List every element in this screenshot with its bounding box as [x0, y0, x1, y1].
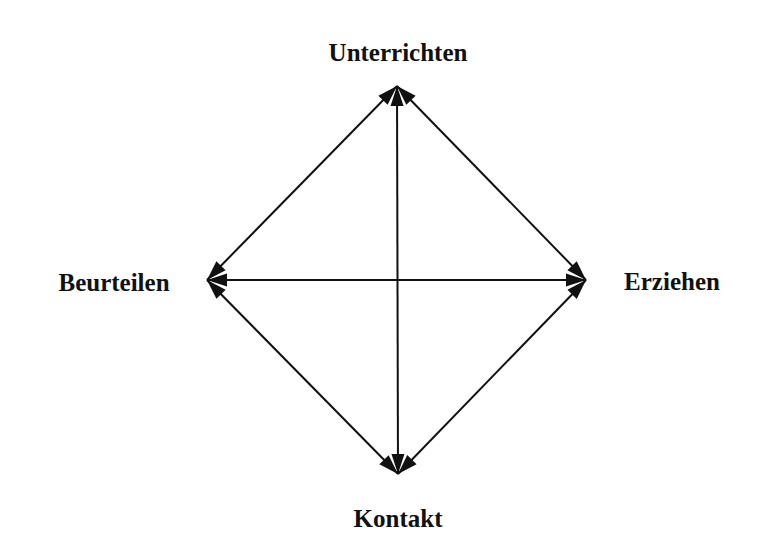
node-label-erziehen: Erziehen	[624, 269, 720, 294]
node-label-unterrichten: Unterrichten	[329, 40, 468, 65]
edge-left-bottom	[207, 280, 398, 474]
node-label-kontakt: Kontakt	[354, 506, 443, 531]
edge-top-left	[207, 86, 397, 280]
diagram-canvas: Unterrichten Beurteilen Erziehen Kontakt	[0, 0, 763, 548]
edge-top-right	[397, 86, 586, 280]
edge-right-bottom	[398, 280, 586, 474]
node-label-beurteilen: Beurteilen	[58, 270, 169, 295]
